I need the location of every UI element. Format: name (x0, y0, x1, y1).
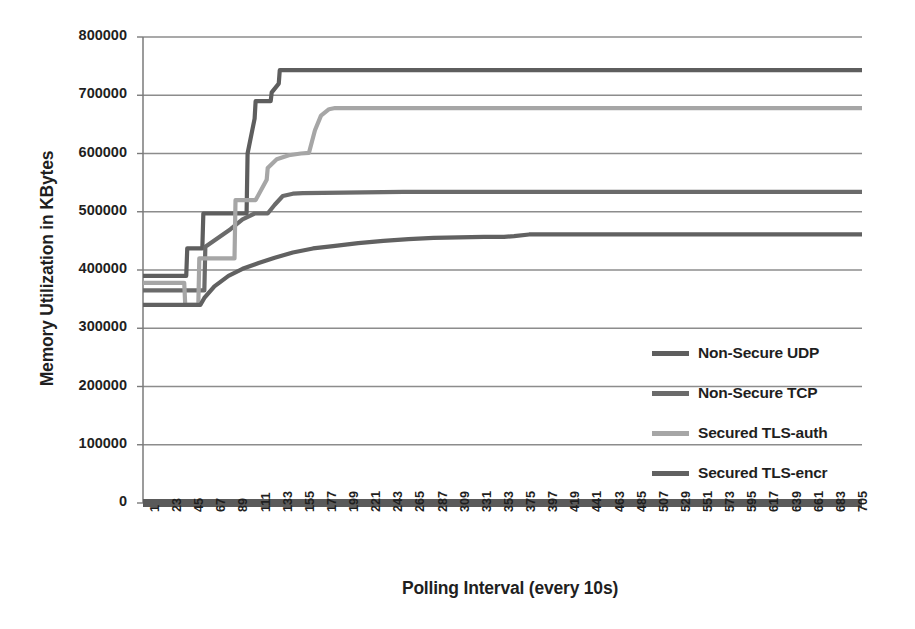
x-axis-tick-label: 419 (568, 491, 582, 512)
y-axis-tick-marks (137, 37, 143, 503)
x-axis-tick-label: 177 (325, 491, 339, 512)
x-axis-tick-label: 331 (480, 491, 494, 512)
x-axis-tick-label: 353 (502, 491, 516, 512)
x-axis-tick-label: 661 (812, 491, 826, 512)
x-axis-tick-label: 683 (834, 491, 848, 512)
x-axis-tick-label: 111 (259, 492, 273, 512)
x-axis-title: Polling Interval (every 10s) (150, 578, 870, 599)
x-axis-tick-label: 397 (546, 491, 560, 512)
x-axis-tick-label: 287 (436, 491, 450, 512)
series-line-1 (143, 192, 862, 290)
legend-color-swatch (652, 391, 689, 396)
chart-legend: Non-Secure UDPNon-Secure TCPSecured TLS-… (652, 333, 882, 493)
x-axis-tick-label: 199 (347, 491, 361, 512)
x-axis-tick-label: 485 (635, 491, 649, 512)
x-axis-tick-label: 243 (391, 491, 405, 512)
legend-label: Secured TLS-auth (698, 424, 827, 442)
x-axis-tick-label: 67 (214, 498, 228, 512)
legend-color-swatch (652, 431, 689, 436)
x-axis-tick-label: 265 (413, 491, 427, 512)
legend-color-swatch (652, 351, 689, 356)
x-axis-tick-label: 551 (701, 491, 715, 512)
x-axis-tick-label: 1 (148, 505, 162, 512)
legend-item[interactable]: Non-Secure TCP (652, 373, 882, 413)
legend-item[interactable]: Secured TLS-auth (652, 413, 882, 453)
x-axis-tick-label: 309 (458, 491, 472, 512)
x-axis-tick-label: 705 (856, 491, 870, 512)
x-axis-tick-label: 507 (657, 491, 671, 512)
x-axis-tick-label: 441 (590, 491, 604, 512)
x-axis-tick-label: 595 (745, 491, 759, 512)
x-axis-tick-label: 89 (236, 498, 250, 512)
legend-label: Non-Secure UDP (698, 344, 819, 362)
legend-label: Non-Secure TCP (698, 384, 818, 402)
x-axis-tick-label: 573 (723, 491, 737, 512)
x-axis-tick-label: 133 (281, 491, 295, 512)
legend-item[interactable]: Secured TLS-encr (652, 453, 882, 493)
x-axis-tick-label: 639 (790, 491, 804, 512)
legend-label: Secured TLS-encr (698, 464, 827, 482)
plot-area (0, 0, 915, 629)
legend-color-swatch (652, 471, 689, 476)
x-axis-tick-label: 617 (767, 491, 781, 512)
x-axis-tick-label: 221 (369, 491, 383, 512)
legend-item[interactable]: Non-Secure UDP (652, 333, 882, 373)
x-axis-tick-label: 155 (303, 491, 317, 512)
memory-utilization-line-chart: Memory Utilization in KBytes 01000002000… (0, 0, 915, 629)
x-axis-tick-label: 45 (192, 498, 206, 512)
x-axis-tick-label: 375 (524, 491, 538, 512)
x-axis-tick-label: 23 (170, 498, 184, 512)
series-line-0 (143, 70, 862, 276)
x-axis-tick-label: 529 (679, 491, 693, 512)
x-axis-tick-label: 463 (613, 491, 627, 512)
